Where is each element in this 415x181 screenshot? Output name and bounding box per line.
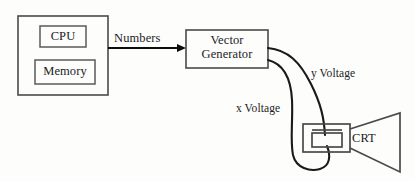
cpu-label: CPU [40,29,86,43]
y-voltage-label: y Voltage [311,67,355,80]
x-voltage-label: x Voltage [236,102,280,115]
vector-generator-label: Vector Generator [187,33,267,61]
vector-display-diagram: CPU Memory Numbers Vector Generator y Vo… [0,0,415,181]
y-voltage-wire [268,48,325,135]
memory-label: Memory [35,64,95,78]
diagram-canvas [0,0,415,181]
vector-generator-label-line2: Generator [187,47,267,61]
arrow-right-icon [177,44,186,52]
vector-generator-label-line1: Vector [187,33,267,47]
deflection-plates-icon [312,133,342,147]
numbers-edge-label: Numbers [114,31,161,45]
crt-label: CRT [352,131,376,145]
